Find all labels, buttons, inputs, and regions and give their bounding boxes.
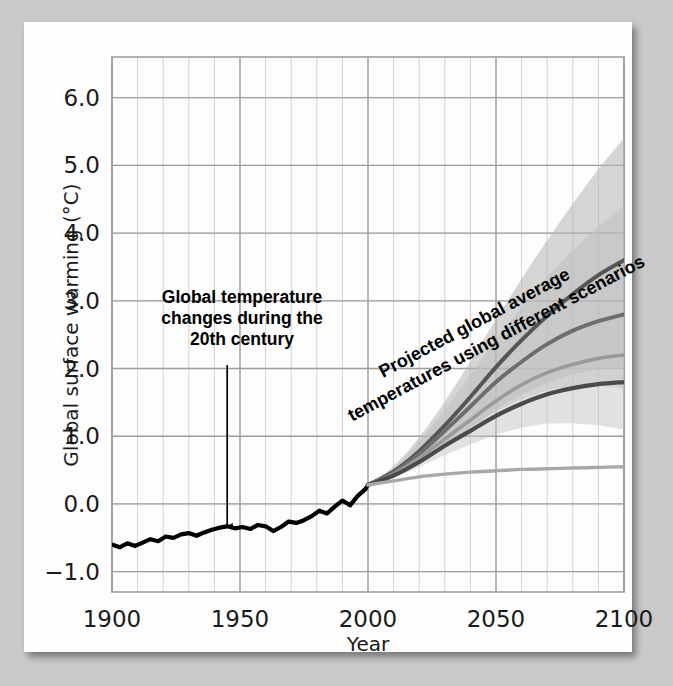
y-axis-title: Global surface warming (°C) <box>59 183 83 466</box>
y-tick-1: 0.0 <box>63 491 100 517</box>
y-tick-0: −1.0 <box>44 559 100 585</box>
x-tick-2: 2000 <box>339 606 398 632</box>
historical-annotation: Global temperature changes during the 20… <box>161 287 323 526</box>
x-tick-0: 1900 <box>83 606 142 632</box>
x-tick-1: 1950 <box>211 606 270 632</box>
x-axis-tick-labels: 19001950200020502100 <box>83 606 654 632</box>
y-tick-6: 5.0 <box>63 152 100 178</box>
x-tick-4: 2100 <box>595 606 654 632</box>
x-tick-3: 2050 <box>467 606 526 632</box>
y-tick-7: 6.0 <box>63 85 100 111</box>
historical-annotation-line-2: changes during the <box>161 308 323 328</box>
climate-projection-chart: −1.00.01.02.03.04.05.06.0 19001950200020… <box>0 0 673 686</box>
historical-annotation-line-1: Global temperature <box>162 287 323 307</box>
x-axis-title: Year <box>346 632 390 656</box>
historical-annotation-line-3: 20th century <box>190 329 294 349</box>
